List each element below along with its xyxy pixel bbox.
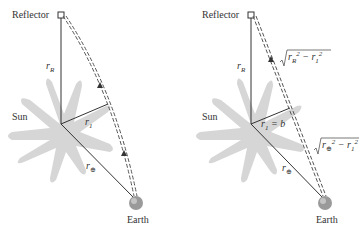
r-1-label: r1 (85, 116, 92, 130)
left-diagram: Reflector Sun Earth rR r1 r⊕ (0, 0, 180, 231)
reflector-label: Reflector (202, 9, 239, 20)
reflector-label: Reflector (12, 9, 49, 20)
r-r-label: rR (46, 60, 54, 74)
r-r-label: rR (237, 60, 245, 74)
lower-segment-formula: r⊕2 − r12 (322, 138, 358, 153)
sun-label: Sun (12, 111, 28, 122)
earth-label: Earth (127, 214, 149, 225)
earth-label: Earth (316, 214, 338, 225)
reflector-icon (58, 12, 64, 18)
r-earth-label: r⊕ (282, 162, 292, 176)
right-diagram: Reflector Sun Earth rR r1 = b r⊕ rR2 − r… (180, 0, 359, 231)
sun-label: Sun (202, 111, 218, 122)
upper-segment-formula: rR2 − r12 (288, 50, 322, 65)
r-1-equals-b-label: r1 = b (261, 118, 285, 132)
r-earth-label: r⊕ (86, 160, 96, 174)
